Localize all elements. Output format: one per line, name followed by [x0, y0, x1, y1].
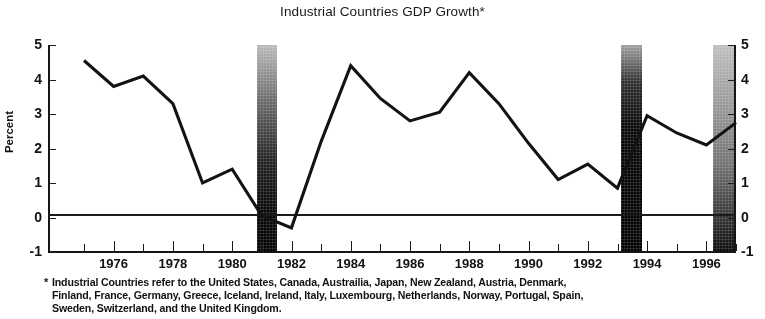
x-tick-label-1982: 1982 [266, 256, 318, 271]
x-tick-label-1994: 1994 [621, 256, 673, 271]
gdp-growth-line [84, 61, 736, 228]
x-tick-label-1980: 1980 [206, 256, 258, 271]
y-tick-label-left-2: 2 [16, 140, 42, 156]
y-tick-label-left-3: 3 [16, 105, 42, 121]
y-tick-label-right--1: -1 [741, 243, 765, 259]
y-tick-label-left-0: 0 [16, 209, 42, 225]
x-tick-label-1992: 1992 [562, 256, 614, 271]
x-tick-label-1990: 1990 [503, 256, 555, 271]
y-tick-label-left-1: 1 [16, 174, 42, 190]
x-tick-label-1976: 1976 [88, 256, 140, 271]
chart-title: Industrial Countries GDP Growth* [0, 4, 765, 19]
y-tick-label-left--1: -1 [16, 243, 42, 259]
y-tick-label-left-4: 4 [16, 71, 42, 87]
x-tick-1997 [736, 244, 737, 251]
data-series-gdp-growth [48, 45, 736, 253]
y-tick-label-right-5: 5 [741, 36, 765, 52]
y-tick-label-right-1: 1 [741, 174, 765, 190]
footnote-line-1: Industrial Countries refer to the United… [52, 276, 752, 289]
y-axis-title: Percent [3, 96, 15, 168]
y-tick-label-right-0: 0 [741, 209, 765, 225]
y-tick-label-right-4: 4 [741, 71, 765, 87]
y-tick-label-right-3: 3 [741, 105, 765, 121]
footnote-line-3: Sweden, Switzerland, and the United King… [52, 302, 752, 315]
footnote: * Industrial Countries refer to the Unit… [52, 276, 752, 316]
y-tick-label-left-5: 5 [16, 36, 42, 52]
x-tick-label-1978: 1978 [147, 256, 199, 271]
x-tick-label-1996: 1996 [680, 256, 732, 271]
footnote-line-2: Finland, France, Germany, Greece, Icelan… [52, 289, 752, 302]
footnote-marker: * [44, 276, 48, 289]
y-tick-label-right-2: 2 [741, 140, 765, 156]
chart-page: Industrial Countries GDP Growth* Percent… [0, 0, 765, 319]
x-tick-label-1986: 1986 [384, 256, 436, 271]
x-tick-label-1988: 1988 [443, 256, 495, 271]
x-tick-label-1984: 1984 [325, 256, 377, 271]
plot-area [48, 45, 736, 253]
